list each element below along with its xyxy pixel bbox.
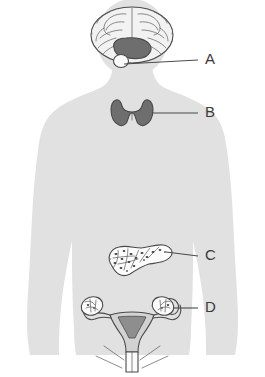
label-b: B [205,103,215,120]
anatomical-diagram: A B C D [0,0,265,377]
endocrine-system-figure: A B C D [0,0,265,377]
label-c: C [205,246,216,263]
label-a: A [205,50,215,67]
pituitary-gland-shape [114,55,129,68]
label-d: D [205,298,216,315]
